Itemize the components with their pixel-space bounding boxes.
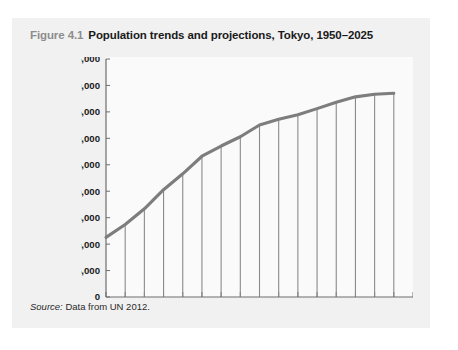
- source-text: Data from UN 2012.: [63, 301, 150, 312]
- figure-title: Figure 4.1Population trends and projecti…: [30, 29, 373, 41]
- x-tick-label: 2030: [402, 302, 413, 305]
- source-label: Source:: [30, 301, 63, 312]
- x-tick-label: 1980: [210, 302, 231, 305]
- y-tick-label: 40,000: [81, 80, 100, 91]
- x-tick-label: 2000: [287, 302, 308, 305]
- y-tick-label: 20,000: [81, 186, 100, 197]
- figure-number: Figure 4.1: [30, 29, 83, 41]
- y-axis-tick-labels: 05,00010,00015,00020,00025,00030,00035,0…: [81, 57, 100, 302]
- y-tick-label: 45,000: [81, 57, 100, 64]
- y-tick-label: 5,000: [81, 265, 100, 276]
- source-note: Source: Data from UN 2012.: [30, 301, 150, 312]
- figure-title-text: Population trends and projections, Tokyo…: [88, 29, 373, 41]
- line-chart-svg: 05,00010,00015,00020,00025,00030,00035,0…: [81, 57, 413, 305]
- y-tick-label: 10,000: [81, 239, 100, 250]
- figure-card: Figure 4.1Population trends and projecti…: [12, 18, 430, 328]
- y-tick-label: 15,000: [81, 212, 100, 223]
- x-tick-label: 2020: [364, 302, 385, 305]
- y-tick-label: 30,000: [81, 133, 100, 144]
- x-tick-label: 2010: [326, 302, 347, 305]
- y-tick-label: 35,000: [81, 106, 100, 117]
- x-tick-label: 1990: [249, 302, 270, 305]
- y-tick-label: 25,000: [81, 159, 100, 170]
- x-tick-label: 1970: [172, 302, 193, 305]
- chart-plot-area: 05,00010,00015,00020,00025,00030,00035,0…: [81, 57, 413, 305]
